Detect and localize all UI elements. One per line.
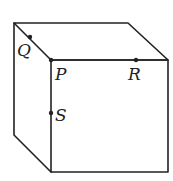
point-s [49,111,53,115]
cube-front-face [51,60,168,172]
cube-diagram: Q P R S [0,0,173,181]
point-q [28,35,32,39]
label-q: Q [17,40,31,60]
label-r: R [127,64,141,84]
point-p [49,58,53,62]
label-s: S [55,105,67,125]
point-r [134,58,138,62]
cube-top-face [14,23,168,60]
label-p: P [54,64,67,84]
